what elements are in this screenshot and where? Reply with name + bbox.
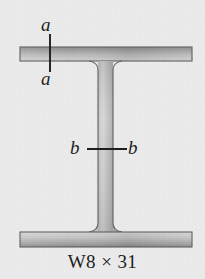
- section-label-a-top: a: [41, 15, 51, 34]
- figure-root: a a b b W8 × 31: [0, 0, 205, 279]
- section-label-a-bottom: a: [41, 69, 51, 88]
- web-left-edge: [89, 61, 98, 232]
- web: [89, 61, 122, 232]
- figure-caption: W8 × 31: [0, 251, 205, 273]
- top-flange-highlight: [21, 48, 192, 61]
- web-right-edge: [113, 61, 122, 232]
- section-label-b-right: b: [128, 138, 138, 157]
- bottom-flange: [20, 232, 192, 247]
- bottom-flange-highlight: [21, 233, 192, 247]
- section-label-b-left: b: [70, 138, 80, 157]
- top-flange: [20, 47, 192, 61]
- web-shading: [98, 61, 113, 232]
- wide-flange-beam-drawing: [0, 0, 205, 279]
